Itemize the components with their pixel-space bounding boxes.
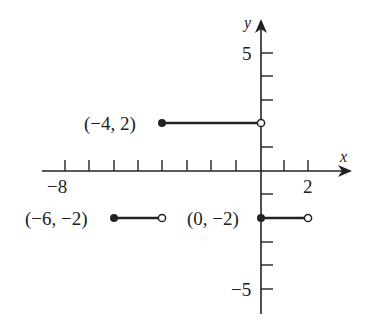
open-dot-icon bbox=[304, 214, 311, 221]
closed-dot-icon bbox=[110, 214, 118, 222]
point-label: (0, −2) bbox=[187, 208, 239, 230]
point-label: (−4, 2) bbox=[84, 113, 136, 135]
x-axis-label: x bbox=[339, 148, 347, 165]
tick-label-x-max: 2 bbox=[303, 176, 313, 197]
open-dot-icon bbox=[257, 119, 264, 126]
x-ticks bbox=[65, 160, 308, 171]
closed-dot-icon bbox=[257, 214, 265, 222]
segment-neg6-neg2: (−6, −2) bbox=[25, 208, 166, 230]
step-function-graph: x y −8 2 5 −5 (−4, 2) (−6, −2) (0, −2) bbox=[0, 0, 372, 329]
y-axis-label: y bbox=[242, 14, 252, 32]
open-dot-icon bbox=[158, 214, 165, 221]
tick-label-y-max: 5 bbox=[242, 43, 252, 64]
tick-label-y-min: −5 bbox=[231, 279, 251, 300]
segment-neg4-2: (−4, 2) bbox=[84, 113, 265, 135]
closed-dot-icon bbox=[158, 119, 166, 127]
segment-0-neg2: (0, −2) bbox=[187, 208, 312, 230]
tick-label-x-min: −8 bbox=[47, 176, 67, 197]
point-label: (−6, −2) bbox=[25, 208, 88, 230]
